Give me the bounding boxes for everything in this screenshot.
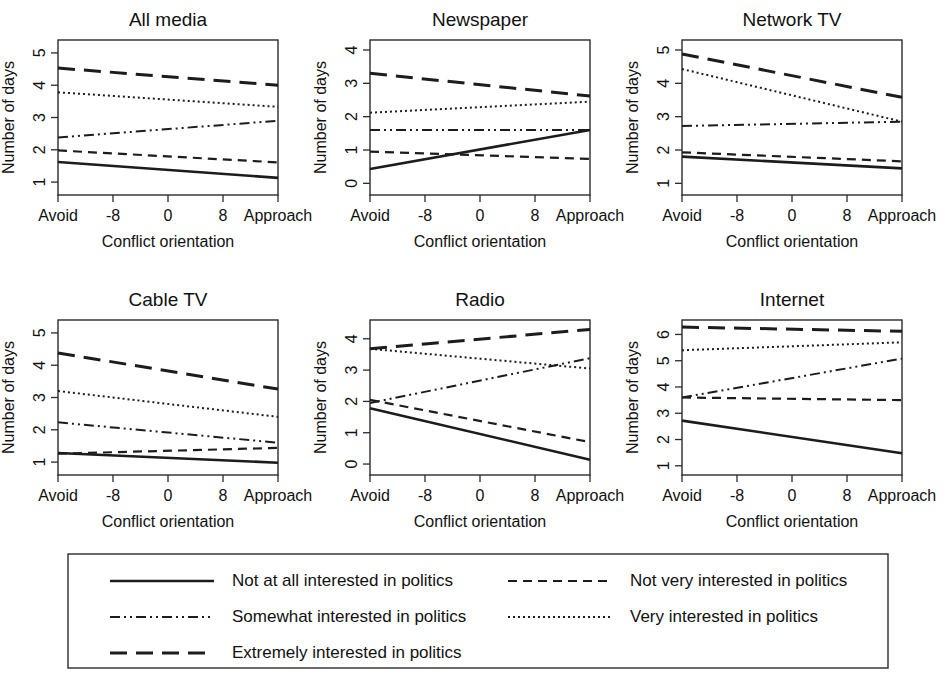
- x-tick-label: -8: [730, 487, 744, 504]
- x-tick-label: 8: [843, 207, 852, 224]
- legend-label: Not at all interested in politics: [232, 571, 453, 590]
- y-tick-label: 5: [31, 328, 48, 337]
- y-tick-label: 4: [343, 334, 360, 343]
- y-tick-label: 2: [31, 425, 48, 434]
- y-tick-label: 2: [31, 145, 48, 154]
- panel-title: Network TV: [743, 9, 842, 30]
- x-tick-label: -8: [730, 207, 744, 224]
- x-axis-title: Conflict orientation: [414, 513, 547, 530]
- panel-title: Newspaper: [432, 9, 529, 30]
- legend-label: Not very interested in politics: [630, 571, 847, 590]
- y-tick-label: 1: [655, 461, 672, 470]
- x-tick-label: -8: [418, 487, 432, 504]
- y-tick-label: 5: [655, 45, 672, 54]
- x-tick-label: Approach: [556, 487, 625, 504]
- y-tick-label: 0: [343, 179, 360, 188]
- y-tick-label: 3: [343, 79, 360, 88]
- y-tick-label: 5: [655, 356, 672, 365]
- y-tick-label: 0: [343, 459, 360, 468]
- y-tick-label: 1: [31, 458, 48, 467]
- y-tick-label: 4: [655, 79, 672, 88]
- panel-title: Internet: [760, 289, 825, 310]
- y-tick-label: 4: [31, 361, 48, 370]
- x-tick-label: Avoid: [662, 207, 702, 224]
- panel-title: Radio: [455, 289, 505, 310]
- x-tick-label: Approach: [868, 207, 937, 224]
- y-axis-title: Number of days: [624, 341, 641, 454]
- x-tick-label: 8: [531, 207, 540, 224]
- y-tick-label: 2: [655, 435, 672, 444]
- y-tick-label: 6: [655, 330, 672, 339]
- x-tick-label: Avoid: [350, 487, 390, 504]
- x-tick-label: 0: [164, 487, 173, 504]
- media-use-figure: All media12345Avoid-808ApproachConflict …: [0, 0, 947, 675]
- x-tick-label: 8: [843, 487, 852, 504]
- legend-label: Very interested in politics: [630, 607, 818, 626]
- x-tick-label: Avoid: [350, 207, 390, 224]
- x-tick-label: 0: [788, 207, 797, 224]
- x-axis-title: Conflict orientation: [726, 513, 859, 530]
- x-tick-label: 0: [788, 487, 797, 504]
- x-tick-label: 8: [531, 487, 540, 504]
- y-tick-label: 1: [655, 179, 672, 188]
- y-axis-title: Number of days: [624, 61, 641, 174]
- y-tick-label: 4: [343, 45, 360, 54]
- x-tick-label: -8: [418, 207, 432, 224]
- legend-label: Somewhat interested in politics: [232, 607, 466, 626]
- x-tick-label: Avoid: [38, 487, 78, 504]
- y-axis-title: Number of days: [312, 61, 329, 174]
- y-tick-label: 4: [655, 382, 672, 391]
- y-tick-label: 1: [343, 145, 360, 154]
- x-tick-label: -8: [106, 207, 120, 224]
- panel-title: Cable TV: [129, 289, 208, 310]
- x-axis-title: Conflict orientation: [414, 233, 547, 250]
- chart-legend: Not at all interested in politicsNot ver…: [68, 554, 888, 668]
- y-tick-label: 3: [343, 366, 360, 375]
- y-tick-label: 4: [31, 81, 48, 90]
- y-tick-label: 2: [343, 112, 360, 121]
- y-tick-label: 2: [343, 397, 360, 406]
- y-tick-label: 3: [31, 113, 48, 122]
- y-tick-label: 3: [31, 393, 48, 402]
- x-tick-label: 8: [219, 487, 228, 504]
- x-tick-label: Approach: [244, 487, 313, 504]
- x-axis-title: Conflict orientation: [102, 513, 235, 530]
- y-axis-title: Number of days: [0, 341, 17, 454]
- y-axis-title: Number of days: [312, 341, 329, 454]
- legend-label: Extremely interested in politics: [232, 643, 462, 662]
- x-tick-label: Approach: [868, 487, 937, 504]
- y-tick-label: 3: [655, 409, 672, 418]
- x-tick-label: Approach: [244, 207, 313, 224]
- y-tick-label: 1: [31, 178, 48, 187]
- x-axis-title: Conflict orientation: [102, 233, 235, 250]
- y-tick-label: 1: [343, 428, 360, 437]
- panel-title: All media: [129, 9, 208, 30]
- x-tick-label: -8: [106, 487, 120, 504]
- x-axis-title: Conflict orientation: [726, 233, 859, 250]
- y-tick-label: 3: [655, 112, 672, 121]
- y-tick-label: 5: [31, 48, 48, 57]
- x-tick-label: Avoid: [662, 487, 702, 504]
- y-axis-title: Number of days: [0, 61, 17, 174]
- x-tick-label: Approach: [556, 207, 625, 224]
- y-tick-label: 2: [655, 145, 672, 154]
- x-tick-label: 0: [164, 207, 173, 224]
- x-tick-label: 0: [476, 207, 485, 224]
- x-tick-label: 8: [219, 207, 228, 224]
- x-tick-label: 0: [476, 487, 485, 504]
- x-tick-label: Avoid: [38, 207, 78, 224]
